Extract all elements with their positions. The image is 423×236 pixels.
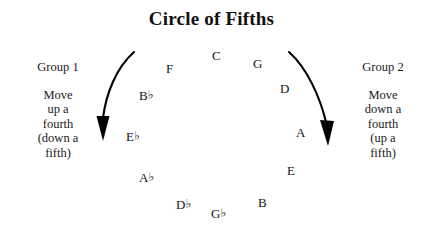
circle-of-fifths-figure: Circle of Fifths Group 1 Move up a fourt… bbox=[0, 0, 423, 236]
left-curved-arrow bbox=[97, 52, 135, 141]
right-curved-arrow bbox=[289, 52, 334, 146]
arrows-layer bbox=[0, 0, 423, 236]
